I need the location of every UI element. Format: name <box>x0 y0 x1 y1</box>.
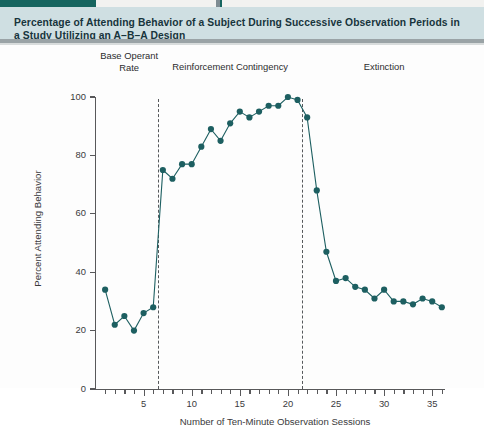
series-line <box>105 97 442 331</box>
x-minor-tick-1 <box>105 390 106 394</box>
data-point-8 <box>169 176 175 182</box>
x-tick-20 <box>288 390 289 396</box>
x-minor-tick-29 <box>374 390 375 394</box>
data-point-3 <box>121 313 127 319</box>
x-minor-tick-2 <box>115 390 116 394</box>
x-tick-10 <box>192 390 193 396</box>
x-minor-tick-24 <box>326 390 327 394</box>
x-minor-tick-26 <box>346 390 347 394</box>
data-point-18 <box>266 103 272 109</box>
data-point-20 <box>285 94 291 100</box>
x-minor-tick-19 <box>278 390 279 394</box>
x-tick-label-25: 25 <box>324 398 348 409</box>
x-tick-label-15: 15 <box>228 398 252 409</box>
x-tick-label-5: 5 <box>132 398 156 409</box>
data-point-10 <box>189 161 195 167</box>
data-point-17 <box>256 109 262 115</box>
data-point-34 <box>419 295 425 301</box>
data-point-26 <box>343 275 349 281</box>
data-point-30 <box>381 287 387 293</box>
x-minor-tick-32 <box>403 390 404 394</box>
data-point-24 <box>323 249 329 255</box>
data-point-31 <box>391 298 397 304</box>
caption-divider-rule-shadow <box>0 43 484 45</box>
x-minor-tick-23 <box>317 390 318 394</box>
data-point-23 <box>314 187 320 193</box>
x-minor-tick-33 <box>413 390 414 394</box>
x-minor-tick-9 <box>182 390 183 394</box>
x-minor-tick-4 <box>134 390 135 394</box>
data-point-25 <box>333 278 339 284</box>
x-tick-35 <box>432 390 433 396</box>
x-minor-tick-31 <box>394 390 395 394</box>
header-band-gap-right <box>222 0 484 7</box>
x-tick-label-35: 35 <box>420 398 444 409</box>
x-tick-label-10: 10 <box>180 398 204 409</box>
x-minor-tick-3 <box>124 390 125 394</box>
data-point-19 <box>275 103 281 109</box>
data-point-1 <box>102 287 108 293</box>
data-point-12 <box>208 126 214 132</box>
x-minor-tick-8 <box>172 390 173 394</box>
data-point-29 <box>371 295 377 301</box>
caption-banner: Percentage of Attending Behavior of a Su… <box>0 7 484 39</box>
x-minor-tick-6 <box>153 390 154 394</box>
y-tick-0 <box>90 388 95 389</box>
data-point-6 <box>150 304 156 310</box>
data-point-32 <box>400 298 406 304</box>
data-point-13 <box>217 138 223 144</box>
x-minor-tick-7 <box>163 390 164 394</box>
data-point-27 <box>352 284 358 290</box>
x-tick-30 <box>384 390 385 396</box>
x-minor-tick-17 <box>259 390 260 394</box>
data-point-4 <box>131 328 137 334</box>
x-minor-tick-27 <box>355 390 356 394</box>
x-tick-label-30: 30 <box>372 398 396 409</box>
x-minor-tick-36 <box>442 390 443 394</box>
x-axis-line <box>95 389 445 390</box>
x-minor-tick-21 <box>298 390 299 394</box>
data-point-5 <box>141 310 147 316</box>
data-point-11 <box>198 144 204 150</box>
x-minor-tick-34 <box>423 390 424 394</box>
data-point-9 <box>179 161 185 167</box>
data-series-plot <box>0 48 484 388</box>
data-point-21 <box>294 97 300 103</box>
x-tick-25 <box>336 390 337 396</box>
data-point-36 <box>439 304 445 310</box>
header-band-tick <box>216 0 220 7</box>
x-minor-tick-13 <box>221 390 222 394</box>
x-minor-tick-22 <box>307 390 308 394</box>
x-minor-tick-18 <box>269 390 270 394</box>
x-tick-5 <box>144 390 145 396</box>
x-minor-tick-28 <box>365 390 366 394</box>
data-point-22 <box>304 114 310 120</box>
data-point-33 <box>410 301 416 307</box>
x-minor-tick-12 <box>211 390 212 394</box>
x-tick-15 <box>240 390 241 396</box>
data-point-2 <box>112 322 118 328</box>
data-point-15 <box>237 109 243 115</box>
x-tick-label-20: 20 <box>276 398 300 409</box>
data-point-28 <box>362 287 368 293</box>
data-point-35 <box>429 298 435 304</box>
x-minor-tick-11 <box>201 390 202 394</box>
data-point-16 <box>246 114 252 120</box>
x-minor-tick-16 <box>249 390 250 394</box>
data-point-14 <box>227 120 233 126</box>
plot-area: Percent Attending Behavior Number of Ten… <box>0 48 484 388</box>
x-minor-tick-14 <box>230 390 231 394</box>
header-band-gap-left <box>96 0 216 7</box>
x-axis-title: Number of Ten-Minute Observation Session… <box>135 416 415 427</box>
data-point-7 <box>160 167 166 173</box>
